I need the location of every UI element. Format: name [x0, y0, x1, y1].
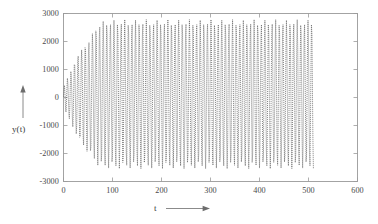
- series-line-y-of-t: [64, 20, 314, 169]
- x-tick-label-300: 300: [198, 186, 223, 195]
- y-tick-label-0: 0: [32, 93, 59, 102]
- y-tick-label-minus1000: -1000: [29, 121, 59, 130]
- y-tick-label-minus2000: -2000: [29, 149, 59, 158]
- x-axis-arrow-icon: [166, 206, 210, 211]
- y-tick-label-3000: 3000: [32, 9, 59, 18]
- x-tick-label-0: 0: [51, 186, 76, 195]
- x-axis-title: t: [154, 203, 157, 213]
- x-tick-label-400: 400: [247, 186, 272, 195]
- x-tick-label-600: 600: [345, 186, 370, 195]
- chart-figure: 3000 2000 1000 0 -1000 -2000 -3000 0 100…: [0, 0, 378, 224]
- x-tick-label-200: 200: [149, 186, 174, 195]
- y-axis-arrow-icon: [20, 85, 25, 118]
- x-tick-label-500: 500: [296, 186, 321, 195]
- y-tick-label-minus3000: -3000: [29, 177, 59, 186]
- y-axis-title: y(t): [12, 124, 25, 134]
- y-tick-label-1000: 1000: [32, 65, 59, 74]
- y-tick-label-2000: 2000: [32, 37, 59, 46]
- x-tick-label-100: 100: [100, 186, 125, 195]
